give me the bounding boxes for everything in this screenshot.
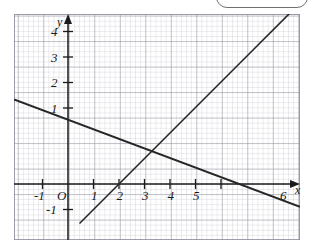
x-tick-label-2: 2	[117, 189, 124, 202]
major-gridlines	[14, 14, 300, 240]
rounded-chip-outline	[216, 0, 308, 8]
y-tick-label-neg1: -1	[46, 203, 57, 216]
x-tick-label-6: 6	[280, 189, 287, 202]
y-tick-label-2: 2	[51, 76, 58, 89]
y-tick-label-1: 1	[51, 102, 58, 115]
coordinate-plot	[14, 14, 300, 240]
x-tick-label-5: 5	[193, 189, 200, 202]
figure-canvas: 4 3 2 1 -1 -1 1 2 3 4 5 6 O y x	[0, 0, 312, 246]
x-tick-label-3: 3	[142, 189, 149, 202]
graph-svg	[14, 14, 300, 240]
x-tick-label-4: 4	[168, 189, 175, 202]
x-tick-label-neg1: -1	[34, 189, 45, 202]
origin-label: O	[57, 189, 66, 202]
y-axis-label: y	[57, 16, 62, 28]
x-axis-label: x	[295, 184, 300, 196]
x-tick-label-1: 1	[91, 189, 98, 202]
y-tick-label-3: 3	[51, 51, 58, 64]
